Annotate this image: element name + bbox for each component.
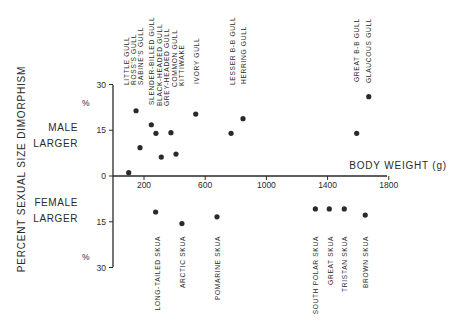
data-point xyxy=(240,116,245,121)
gull-label: GREAT B-B GULL xyxy=(353,18,360,82)
data-point xyxy=(126,170,131,175)
data-point xyxy=(149,122,154,127)
male-label-line2: LARGER xyxy=(33,138,78,149)
data-point xyxy=(153,131,158,136)
data-point xyxy=(168,130,173,135)
x-tick-label: 600 xyxy=(198,180,212,190)
data-point xyxy=(327,206,332,211)
skua-labels: LONG-TAILED SKUAARCTIC SKUAPOMARINE SKUA… xyxy=(154,236,369,314)
data-point xyxy=(313,206,318,211)
data-points xyxy=(126,94,371,226)
data-point xyxy=(159,154,164,159)
data-point xyxy=(173,151,178,156)
data-point xyxy=(133,108,138,113)
female-larger-label: FEMALE LARGER xyxy=(33,197,78,224)
data-point xyxy=(354,131,359,136)
skua-label: POMARINE SKUA xyxy=(214,236,221,300)
x-axis-title: BODY WEIGHT (g) xyxy=(349,160,447,171)
gull-label: LESSER B-B GULL xyxy=(229,17,236,85)
gull-label: GLAUCOUS GULL xyxy=(365,18,372,83)
y-tick-label: 30 xyxy=(97,80,107,90)
gull-label: GREY-HEADED GULL xyxy=(163,28,170,106)
gull-label: KITTIWAKE xyxy=(178,44,185,86)
y-tick-label: 0 xyxy=(101,171,106,181)
gull-label: LITTLE GULL xyxy=(123,37,130,85)
y-unit-bottom: % xyxy=(82,252,90,262)
x-tick-label: 1000 xyxy=(257,180,276,190)
male-label-line1: MALE xyxy=(48,122,78,133)
gull-labels: LITTLE GULLROSS'S GULLSABINE'S GULLSLEND… xyxy=(123,17,372,106)
gull-label: BLACK-HEADED GULL xyxy=(156,24,163,106)
gull-label: SLENDER-BILLED GULL xyxy=(148,17,155,105)
y-axis-title: PERCENT SEXUAL SIZE DIMORPHISM xyxy=(16,66,27,272)
gull-label: COMMON GULL xyxy=(171,29,178,87)
data-point xyxy=(363,212,368,217)
y-tick-label: 15 xyxy=(97,125,107,135)
x-tick-label: 200 xyxy=(137,180,151,190)
data-point xyxy=(137,145,142,150)
data-point xyxy=(366,94,371,99)
skua-label: ARCTIC SKUA xyxy=(179,236,186,288)
data-point xyxy=(228,131,233,136)
skua-label: SOUTH POLAR SKUA xyxy=(312,236,319,314)
skua-label: BROWN SKUA xyxy=(362,236,369,288)
y-unit-top: % xyxy=(82,98,90,108)
skua-label: TRISTAN SKUA xyxy=(341,236,348,292)
x-ticks: 200600100014001800 xyxy=(137,176,399,190)
x-tick-label: 1400 xyxy=(318,180,337,190)
skua-label: LONG-TAILED SKUA xyxy=(154,236,161,310)
data-point xyxy=(153,209,158,214)
plot-area: PERCENT SEXUAL SIZE DIMORPHISM MALE LARG… xyxy=(0,0,459,332)
y-tick-label: 30 xyxy=(97,263,107,273)
data-point xyxy=(342,206,347,211)
male-larger-label: MALE LARGER xyxy=(33,122,78,149)
gull-label: ROSS'S GULL xyxy=(130,34,137,85)
data-point xyxy=(193,111,198,116)
gull-label: HERRING GULL xyxy=(240,26,247,84)
female-label-line2: LARGER xyxy=(33,213,78,224)
skua-label: GREAT SKUA xyxy=(327,236,334,285)
gull-label: IVORY GULL xyxy=(193,38,200,84)
x-tick-label: 1800 xyxy=(379,180,398,190)
data-point xyxy=(179,221,184,226)
gull-label: SABINE'S GULL xyxy=(137,27,144,85)
data-point xyxy=(214,214,219,219)
scatter-chart: PERCENT SEXUAL SIZE DIMORPHISM MALE LARG… xyxy=(0,0,459,332)
y-ticks: 301501530 xyxy=(97,80,113,273)
female-label-line1: FEMALE xyxy=(34,197,78,208)
y-tick-label: 15 xyxy=(97,217,107,227)
